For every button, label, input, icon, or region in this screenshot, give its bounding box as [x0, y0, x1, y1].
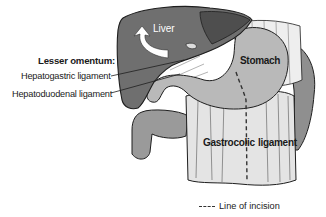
colon-left: [132, 110, 188, 159]
label-stomach: Stomach: [240, 56, 280, 66]
anatomy-diagram: Lesser omentum: Hepatogastric ligament H…: [0, 0, 326, 217]
label-gastrocolic: Gastrocolic: [203, 138, 255, 148]
label-lesser-omentum: Lesser omentum:: [38, 56, 115, 66]
legend-label: Line of incision: [219, 201, 280, 211]
dashed-line-icon: [199, 206, 215, 207]
label-hepatoduodenal-ligament: Hepatoduodenal ligament: [12, 90, 112, 99]
legend: Line of incision: [199, 201, 280, 211]
label-hepatogastric-ligament: Hepatogastric ligament: [21, 72, 111, 81]
label-liver: Liver: [153, 24, 175, 34]
label-ligament: ligament: [258, 138, 297, 148]
